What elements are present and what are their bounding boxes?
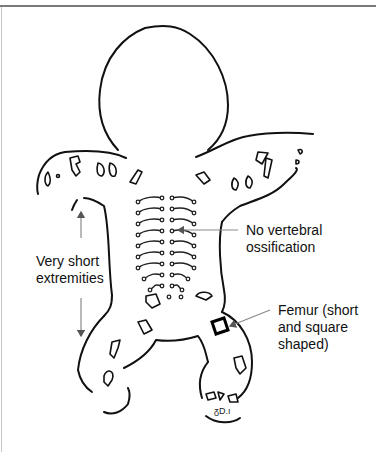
right-leg-inner — [200, 362, 208, 398]
rib-right — [172, 197, 194, 202]
left-foot-arc — [104, 388, 130, 414]
figure-frame: ᵹD.ı Very short extremities No vertebral… — [0, 0, 376, 452]
left-arm-outline — [37, 151, 126, 194]
rib-end — [136, 266, 140, 270]
rib-end — [160, 196, 164, 200]
head-outline — [99, 26, 228, 150]
rib-end — [160, 251, 164, 255]
femur-label: Femur (short and square shaped) — [278, 302, 358, 353]
rib-end — [170, 218, 174, 222]
rib-end — [170, 284, 174, 288]
right-arm-lower — [222, 168, 297, 222]
vertebral-ossification-label: No vertebral ossification — [246, 222, 322, 256]
rib-left — [138, 219, 162, 224]
rib-end — [192, 233, 196, 237]
crotch-outline — [124, 336, 208, 368]
rib-end — [180, 288, 184, 292]
rib-left — [138, 252, 162, 257]
rib-end — [170, 196, 174, 200]
rib-end — [160, 262, 164, 266]
rib-end — [142, 277, 146, 281]
rib-left — [138, 263, 162, 268]
rib-end — [192, 244, 196, 248]
right-torso-outline — [220, 222, 225, 312]
rib-end — [160, 284, 164, 288]
rib-end — [160, 240, 164, 244]
rib-right — [172, 263, 194, 268]
rib-end — [170, 229, 174, 233]
rib-end — [192, 222, 196, 226]
rib-end — [192, 266, 196, 270]
rib-end — [186, 277, 190, 281]
rib-end — [170, 251, 174, 255]
extremities-label: Very short extremities — [36, 253, 104, 287]
rib-right — [172, 219, 194, 224]
leg-bones: ᵹD.ı — [104, 292, 246, 416]
rib-end — [170, 240, 174, 244]
rib-end — [170, 262, 174, 266]
rib-end — [170, 207, 174, 211]
left-leg-outline — [78, 316, 104, 392]
rib-end — [136, 233, 140, 237]
rib-end — [148, 288, 152, 292]
rib-end — [160, 273, 164, 277]
rib-left — [138, 208, 162, 213]
sacral-dot — [179, 295, 183, 299]
rib-left — [138, 230, 162, 235]
rib-right — [172, 241, 194, 246]
rib-left — [138, 197, 162, 202]
right-foot-arc — [206, 416, 240, 422]
rib-end — [160, 218, 164, 222]
rib-end — [136, 211, 140, 215]
arm-bones — [45, 149, 302, 190]
rib-end — [192, 200, 196, 204]
sacral-dot — [167, 295, 171, 299]
rib-end — [136, 200, 140, 204]
rib-left — [144, 274, 162, 279]
rib-end — [192, 255, 196, 259]
femur-bone — [212, 318, 228, 334]
rib-end — [160, 207, 164, 211]
rib-end — [136, 244, 140, 248]
rib-cage — [136, 196, 196, 299]
left-arm-tip — [72, 200, 77, 210]
rib-end — [136, 255, 140, 259]
rib-end — [192, 211, 196, 215]
rib-end — [170, 273, 174, 277]
rib-right — [172, 230, 194, 235]
rib-left — [138, 241, 162, 246]
svg-text:ᵹD.ı: ᵹD.ı — [214, 406, 231, 416]
rib-end — [160, 229, 164, 233]
rib-end — [136, 222, 140, 226]
rib-right — [172, 208, 194, 213]
rib-right — [172, 252, 194, 257]
femur-pointer — [230, 310, 270, 326]
